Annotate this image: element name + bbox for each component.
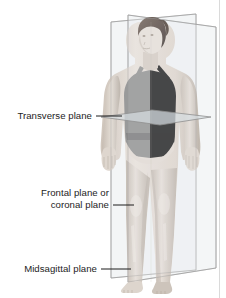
anatomical-planes-figure: Transverse plane Frontal plane or corona… [0, 0, 226, 298]
label-transverse-plane: Transverse plane [17, 110, 92, 121]
planes-diagram-canvas: Transverse plane Frontal plane or corona… [0, 0, 226, 298]
midsagittal-plane-front-edges [128, 15, 216, 282]
label-frontal-plane-line1: Frontal plane or [41, 187, 110, 198]
label-midsagittal-plane: Midsagittal plane [24, 263, 97, 274]
label-frontal-plane-line2: coronal plane [51, 199, 109, 210]
